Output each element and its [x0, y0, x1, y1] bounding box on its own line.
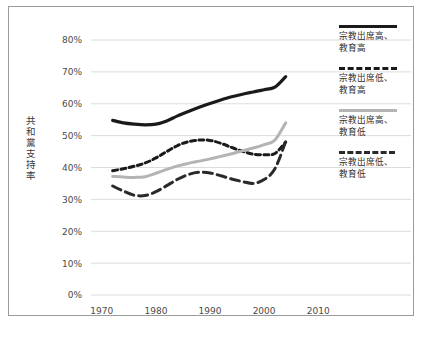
x-axis-tick-label: 2000	[253, 306, 276, 315]
legend-line-swatch	[339, 151, 395, 154]
legend-label: 宗教出席高、 教育低	[339, 115, 411, 138]
legend-entry-4[interactable]: 宗教出席低、 教育低	[339, 151, 411, 180]
y-axis-tick-label: 0%	[68, 290, 83, 300]
y-axis-tick-label: 60%	[62, 99, 82, 109]
y-axis-tick-label: 40%	[62, 163, 82, 173]
y-axis-tick-label: 30%	[62, 195, 82, 205]
legend-line-swatch	[339, 67, 397, 70]
x-axis-tick-label: 1970	[90, 306, 113, 315]
legend-label: 宗教出席高、 教育高	[339, 31, 411, 54]
x-axis-tick-label: 1990	[199, 306, 222, 315]
legend-entry-1[interactable]: 宗教出席高、 教育高	[339, 25, 411, 54]
series-line-1	[113, 77, 286, 125]
y-axis-tick-label: 10%	[62, 259, 82, 269]
y-axis-tick-label: 80%	[62, 35, 82, 45]
x-axis-tick-labels: 19701980199020002010	[90, 306, 330, 315]
legend-line-swatch	[339, 25, 397, 28]
series-line-4	[113, 141, 286, 196]
y-axis-tick-label: 20%	[62, 227, 82, 237]
x-axis-tick-label: 2010	[307, 306, 330, 315]
data-series-group	[113, 77, 286, 196]
legend-label: 宗教出席低、 教育高	[339, 73, 411, 96]
x-axis-tick-label: 1980	[144, 306, 167, 315]
chart-legend: 宗教出席高、 教育高宗教出席低、 教育高宗教出席高、 教育低宗教出席低、 教育低	[339, 25, 411, 193]
legend-entry-2[interactable]: 宗教出席低、 教育高	[339, 67, 411, 96]
series-line-3	[113, 123, 286, 178]
y-axis-tick-label: 70%	[62, 67, 82, 77]
legend-label: 宗教出席低、 教育低	[339, 157, 411, 180]
legend-entry-3[interactable]: 宗教出席高、 教育低	[339, 109, 411, 138]
legend-line-swatch	[339, 109, 397, 112]
y-axis-tick-label: 50%	[62, 131, 82, 141]
y-axis-tick-labels: 0%10%20%30%40%50%60%70%80%	[62, 35, 82, 300]
chart-figure: 共和黨支持率 0%10%20%30%40%50%60%70%80% 197019…	[8, 6, 414, 316]
